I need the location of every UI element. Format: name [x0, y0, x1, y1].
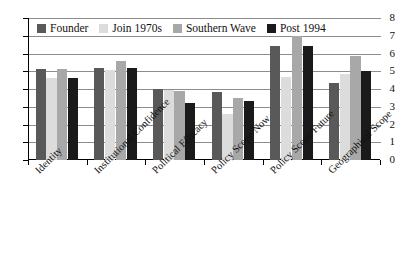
x-tick-mark	[204, 160, 205, 165]
x-tick-mark	[263, 160, 264, 165]
legend-label: Join 1970s	[112, 22, 162, 34]
x-tick-mark	[321, 160, 322, 165]
x-tick-mark	[87, 160, 88, 165]
bar-chart: 876543210 IdentityInstitutional Confiden…	[0, 0, 395, 269]
legend-swatch-icon	[267, 24, 276, 33]
legend-item: Join 1970s	[99, 22, 162, 34]
chart-legend: FounderJoin 1970sSouthern WavePost 1994	[33, 20, 341, 36]
bar-groups	[30, 18, 380, 160]
bar	[36, 69, 46, 160]
legend-item: Southern Wave	[173, 22, 256, 34]
legend-item: Post 1994	[267, 22, 326, 34]
bar-group	[36, 18, 79, 160]
legend-label: Post 1994	[280, 22, 326, 34]
legend-swatch-icon	[173, 24, 182, 33]
bar	[68, 78, 78, 160]
bar	[212, 92, 222, 160]
x-tick-mark	[380, 160, 381, 165]
legend-item: Founder	[37, 22, 88, 34]
bar	[270, 46, 280, 160]
x-tick-mark	[28, 160, 29, 165]
bar	[94, 68, 104, 160]
legend-swatch-icon	[37, 24, 46, 33]
x-tick-mark	[145, 160, 146, 165]
legend-label: Southern Wave	[186, 22, 256, 34]
legend-label: Founder	[50, 22, 88, 34]
legend-swatch-icon	[99, 24, 108, 33]
